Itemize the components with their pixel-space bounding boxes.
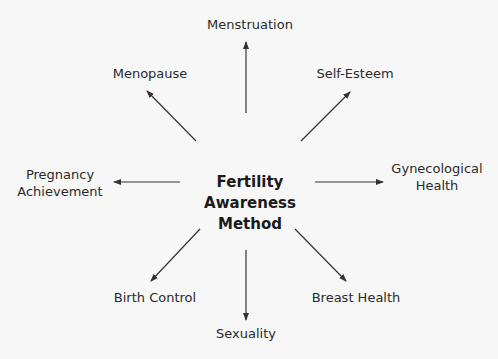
node-menstruation: Menstruation — [190, 16, 310, 33]
node-pregnancy-achievement: Pregnancy Achievement — [10, 166, 110, 200]
arrow-bottom-right — [295, 229, 346, 281]
arrow-top-left — [147, 91, 196, 141]
center-line-3: Method — [190, 214, 310, 235]
node-left-line-1: Pregnancy — [10, 166, 110, 183]
center-line-2: Awareness — [190, 193, 310, 214]
node-gynecological-health: Gynecological Health — [382, 160, 492, 194]
node-left-line-2: Achievement — [10, 183, 110, 200]
node-breast-health: Breast Health — [296, 289, 416, 306]
arrow-top-right — [301, 92, 350, 141]
node-right-line-1: Gynecological — [382, 160, 492, 177]
center-node: Fertility Awareness Method — [190, 172, 310, 235]
node-right-line-2: Health — [382, 177, 492, 194]
center-line-1: Fertility — [190, 172, 310, 193]
node-menopause: Menopause — [100, 65, 200, 82]
node-self-esteem: Self-Esteem — [305, 65, 405, 82]
arrow-bottom-left — [151, 229, 200, 281]
node-sexuality: Sexuality — [196, 325, 296, 342]
node-birth-control: Birth Control — [95, 289, 215, 306]
